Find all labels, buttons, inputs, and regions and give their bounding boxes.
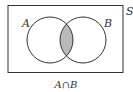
set-b-label: B [103, 17, 112, 30]
caption: A∩B [54, 79, 78, 90]
venn-diagram: A B S A∩B [0, 0, 133, 92]
set-a-label: A [21, 17, 30, 30]
universe-label: S [126, 5, 133, 18]
